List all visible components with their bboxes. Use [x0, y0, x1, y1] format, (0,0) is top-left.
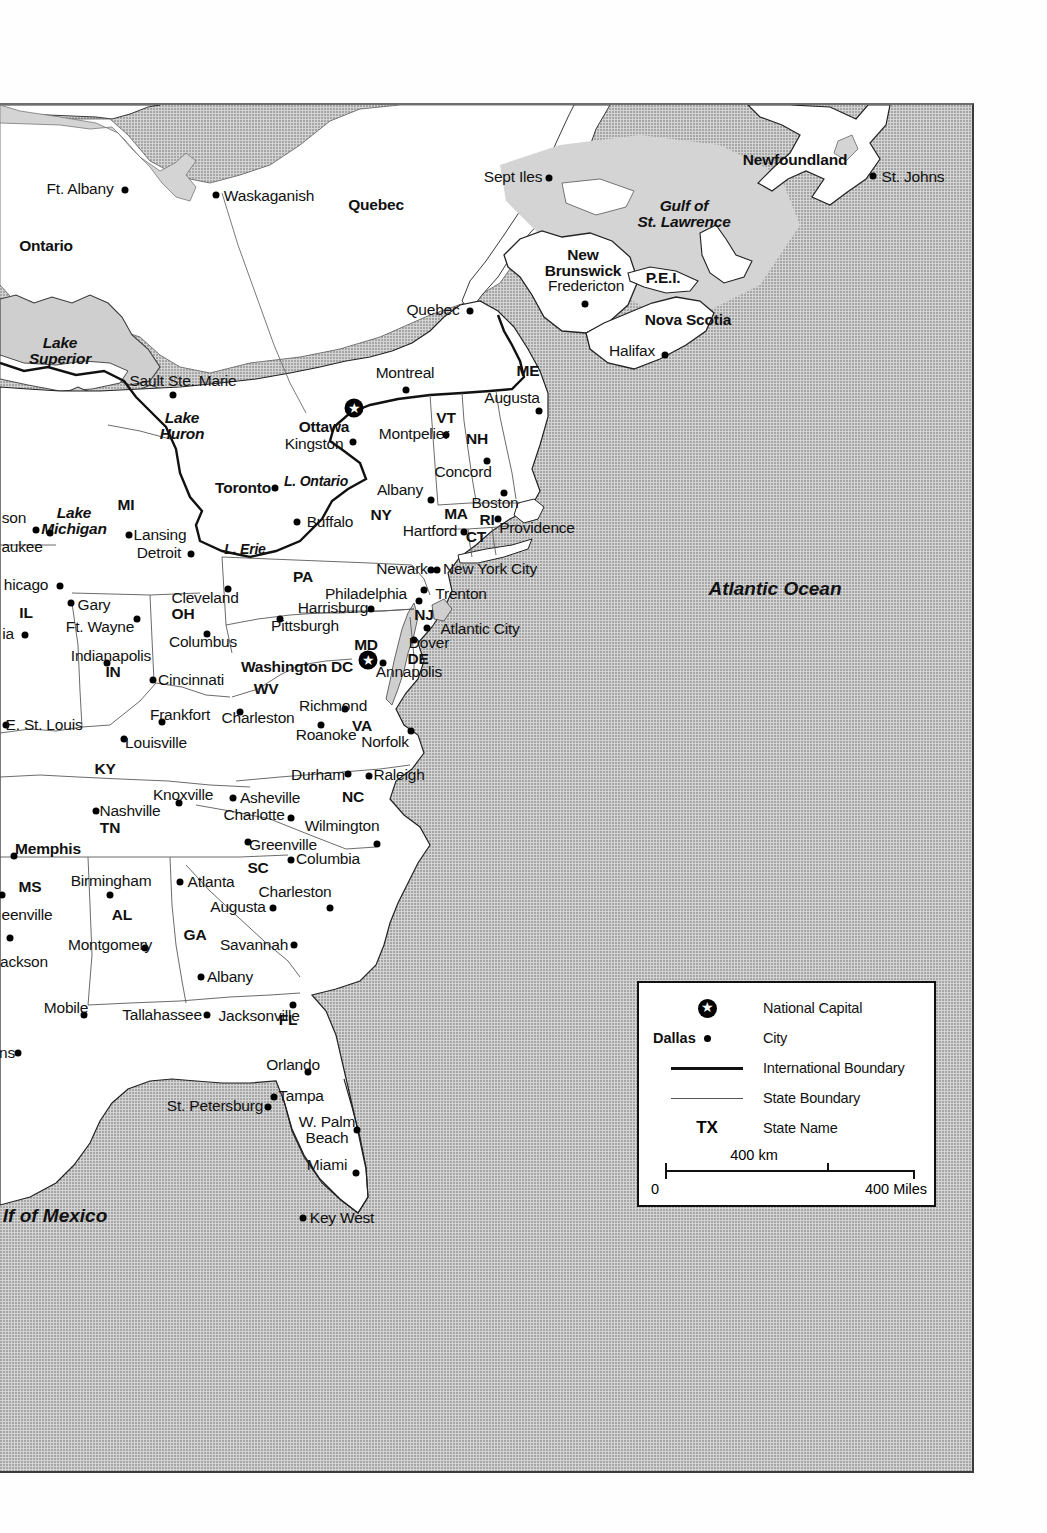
city-dot-icon [704, 1035, 711, 1042]
legend-inner: ★ National Capital Dallas City [639, 983, 934, 1205]
legend-label-city: City [763, 1030, 787, 1046]
legend-sample-state-abbr: TX [696, 1118, 718, 1138]
scale-km-label: 400 km [665, 1147, 843, 1163]
star-glyph: ★ [701, 1000, 714, 1014]
legend-row-international-boundary: International Boundary [651, 1053, 922, 1083]
map-legend: ★ National Capital Dallas City [637, 981, 936, 1207]
legend-row-state-name: TX State Name [651, 1113, 922, 1143]
national-capital-star-icon: ★ [698, 999, 717, 1018]
map-page: LakeSuperiorLakeHuronLakeMichiganL. Onta… [0, 0, 1047, 1533]
legend-row-national-capital: ★ National Capital [651, 993, 922, 1023]
legend-key-state-name: TX [651, 1118, 763, 1138]
legend-key-national-capital: ★ [651, 999, 763, 1018]
map-canvas: LakeSuperiorLakeHuronLakeMichiganL. Onta… [0, 105, 972, 1471]
scale-miles-bar [665, 1170, 915, 1179]
thick-line-icon [671, 1067, 743, 1070]
legend-label-international-boundary: International Boundary [763, 1060, 905, 1076]
eastern-united-states-land [0, 301, 548, 1213]
legend-row-state-boundary: State Boundary [651, 1083, 922, 1113]
legend-label-state-boundary: State Boundary [763, 1090, 860, 1106]
legend-row-city: Dallas City [651, 1023, 922, 1053]
newfoundland-island [748, 105, 890, 205]
scale-zero-label: 0 [651, 1181, 659, 1197]
legend-label-national-capital: National Capital [763, 1000, 862, 1016]
legend-key-city: Dallas [651, 1035, 763, 1042]
legend-key-state-boundary [651, 1098, 763, 1099]
legend-key-international-boundary [651, 1067, 763, 1070]
map-frame: LakeSuperiorLakeHuronLakeMichiganL. Onta… [0, 103, 974, 1473]
scale-miles-label: 400 Miles [865, 1181, 927, 1197]
geography-layer [0, 105, 974, 1473]
scale-bar: 400 km 0 400 Miles [651, 1147, 923, 1197]
scale-miles-labels: 0 400 Miles [651, 1181, 927, 1197]
legend-label-state-name: State Name [763, 1120, 838, 1136]
legend-sample-city-name: Dallas [653, 1030, 696, 1046]
thin-line-icon [671, 1098, 743, 1099]
